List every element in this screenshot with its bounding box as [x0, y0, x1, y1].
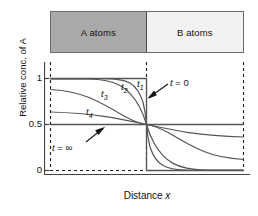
annotation-t-equals-zero-value: = 0: [173, 77, 189, 88]
x-axis-title-text: Distance: [124, 190, 166, 201]
curve-label-t3: t3: [101, 89, 108, 101]
curve-label-t2: t2: [121, 82, 128, 94]
concentration-profile-plot: [44, 62, 250, 180]
couple-half-b-label: B atoms: [177, 27, 213, 38]
couple-half-b-atoms: B atoms: [147, 12, 244, 52]
y-tick-label-0: 0: [24, 165, 42, 175]
annotation-t-equals-infinity-value: = ∞: [55, 142, 73, 153]
curve-label-t3-sub: 3: [104, 94, 108, 101]
curve-label-t4-sub: 4: [89, 112, 93, 119]
t-zero-arrow: [149, 84, 169, 98]
couple-half-a-atoms: A atoms: [51, 12, 147, 52]
t-infinity-arrow: [86, 128, 104, 142]
curve-label-t1: t1: [137, 79, 144, 91]
x-axis-title: Distance x: [44, 190, 250, 201]
figure-root: A atoms B atoms: [0, 0, 258, 216]
y-axis-title: Relative conc. of A: [17, 18, 28, 138]
x-axis-title-variable: x: [165, 190, 170, 201]
curve-label-t1-sub: 1: [140, 84, 144, 91]
annotation-t-equals-zero: t = 0: [170, 78, 189, 88]
diffusion-couple-box: A atoms B atoms: [50, 11, 244, 53]
curve-label-t4: t4: [86, 107, 93, 119]
annotation-t-equals-infinity: t = ∞: [52, 143, 72, 153]
couple-half-a-label: A atoms: [81, 27, 116, 38]
curve-label-t2-sub: 2: [124, 87, 128, 94]
